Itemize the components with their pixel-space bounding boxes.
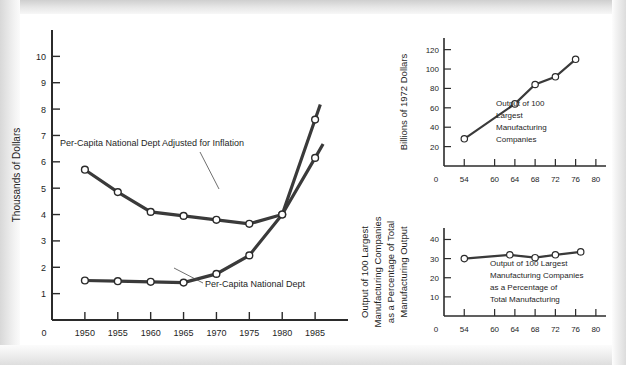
bottom-right-x-tick-label: 80 [591, 325, 600, 334]
top-right-annotation-line: Output of 100 [496, 99, 545, 108]
bottom-right-line-chart: 10203040 54606468727680 Output of 100 La… [352, 192, 622, 352]
main-data-point [180, 213, 187, 220]
main-y-tick-label: 10 [36, 52, 46, 62]
bottom-right-x-tick-label: 72 [551, 325, 560, 334]
bottom-right-data-point [461, 255, 467, 261]
main-line-chart: 12345678910 1950195519601965197019751980… [0, 0, 360, 345]
bottom-right-annotation: Output of 100 LargestManufacturing Compa… [490, 259, 583, 304]
main-x-tick-label: 1980 [272, 328, 292, 338]
top-right-x-tick-label: 64 [510, 175, 519, 184]
main-x-tick-label: 1960 [141, 328, 161, 338]
bottom-right-y-tick-label: 20 [430, 274, 439, 283]
main-data-point [82, 277, 89, 284]
main-x-tick-label: 1970 [206, 328, 226, 338]
top-right-y-tick-label: 40 [430, 123, 439, 132]
bottom-right-data-point [578, 249, 584, 255]
main-data-point [114, 278, 121, 285]
top-right-x-tick-label: 76 [571, 175, 580, 184]
main-x-tick-label: 1975 [239, 328, 259, 338]
main-y-tick-label: 6 [41, 157, 46, 167]
bottom-right-annotation-line: Manufacturing Companies [490, 271, 583, 280]
main-data-point [114, 189, 121, 196]
main-y-tick-label: 9 [41, 78, 46, 88]
main-data-point [246, 252, 253, 259]
top-right-y-tick-label: 120 [426, 46, 440, 55]
top-right-x-tick-label: 54 [460, 175, 469, 184]
bottom-right-annotation-line: as a Percentage of [490, 283, 558, 292]
bottom-right-x-tick-label: 54 [460, 325, 469, 334]
top-right-x-tick-label: 72 [551, 175, 560, 184]
top-right-y-tick-label: 80 [430, 84, 439, 93]
bottom-right-y-axis-title-line: as a Percentage of Total [385, 221, 396, 323]
main-annotation-inflation-adjusted: Per-Capita National Dept Adjusted for In… [60, 138, 244, 148]
top-right-data-point [532, 81, 538, 87]
main-annotation-leader-inflation-adjusted [200, 152, 219, 189]
bottom-right-x-ticks: 54606468727680 [460, 309, 601, 334]
main-y-axis-title: Thousands of Dollars [11, 128, 22, 223]
main-x-origin-label: 0 [41, 328, 46, 338]
main-y-tick-label: 5 [41, 184, 46, 194]
main-y-tick-label: 7 [41, 131, 46, 141]
bottom-right-y-tick-label: 10 [430, 293, 439, 302]
bottom-right-y-tick-label: 40 [430, 235, 439, 244]
top-right-data-point [572, 56, 578, 62]
top-right-x-ticks: 54606468727680 [460, 159, 601, 184]
top-right-y-tick-label: 100 [426, 65, 440, 74]
bottom-right-annotation-line: Output of 100 Largest [490, 259, 568, 268]
top-right-data-point [552, 74, 558, 80]
bottom-right-annotation-line: Total Manufacturing [490, 295, 560, 304]
main-data-point [82, 166, 89, 173]
main-data-point [180, 279, 187, 286]
bottom-right-y-ticks: 10203040 [430, 235, 451, 301]
top-right-x-tick-label: 68 [531, 175, 540, 184]
bottom-right-y-tick-label: 30 [430, 255, 439, 264]
bottom-right-y-axis-title-line: Output of 100 Largest [359, 226, 370, 318]
bottom-right-data-point [552, 252, 558, 258]
main-annotation-national-dept: Per-Capita National Dept [205, 279, 306, 289]
top-right-line-chart: 20406080100120 54606468727680 Billions o… [394, 14, 622, 192]
top-right-y-ticks: 20406080100120 [426, 46, 451, 152]
main-y-tick-label: 2 [41, 263, 46, 273]
main-data-point [312, 155, 319, 162]
bottom-right-x-tick-label: 68 [531, 325, 540, 334]
top-right-x-tick-label: 80 [591, 175, 600, 184]
main-data-point [312, 116, 319, 123]
bottom-right-x-tick-label: 76 [571, 325, 580, 334]
main-series-line-0 [85, 144, 323, 224]
bottom-right-x-tick-label: 64 [510, 325, 519, 334]
main-y-tick-label: 1 [41, 289, 46, 299]
top-right-annotation-line: Companies [496, 135, 536, 144]
main-data-point [147, 278, 154, 285]
main-data-point [279, 211, 286, 218]
main-y-tick-label: 4 [41, 210, 46, 220]
top-right-y-axis-title: Billions of 1972 Dollars [398, 53, 409, 150]
main-y-ticks: 12345678910 [36, 52, 60, 299]
top-right-x-tick-label: 60 [490, 175, 499, 184]
main-x-tick-label: 1955 [108, 328, 128, 338]
main-x-tick-label: 1985 [305, 328, 325, 338]
main-y-tick-label: 8 [41, 105, 46, 115]
bottom-right-data-point [507, 252, 513, 258]
top-right-y-tick-label: 60 [430, 104, 439, 113]
bottom-right-x-tick-label: 60 [490, 325, 499, 334]
top-right-data-point [461, 136, 467, 142]
bottom-right-y-axis-title-line: Manufacturing Output [398, 226, 409, 318]
bottom-right-y-axis-title-line: Manufacturing Companies [372, 216, 383, 327]
top-right-annotation-line: Largest [496, 111, 523, 120]
main-series-group [82, 105, 324, 287]
main-x-ticks: 19501955196019651970197519801985 [75, 312, 325, 338]
top-right-x-origin-label: 0 [434, 175, 439, 184]
main-x-tick-label: 1965 [174, 328, 194, 338]
figure-page: 12345678910 1950195519601965197019751980… [0, 0, 626, 365]
bottom-right-series-line [464, 252, 580, 259]
top-right-y-tick-label: 20 [430, 143, 439, 152]
top-right-annotation: Output of 100LargestManufacturingCompani… [496, 99, 547, 144]
main-data-point [213, 216, 220, 223]
main-data-point [213, 271, 220, 278]
bottom-right-y-axis-title: Output of 100 LargestManufacturing Compa… [359, 216, 409, 327]
main-x-tick-label: 1950 [75, 328, 95, 338]
main-y-tick-label: 3 [41, 236, 46, 246]
top-right-annotation-line: Manufacturing [496, 123, 547, 132]
main-data-point [147, 209, 154, 216]
bottom-right-x-origin-label: 0 [434, 325, 439, 334]
